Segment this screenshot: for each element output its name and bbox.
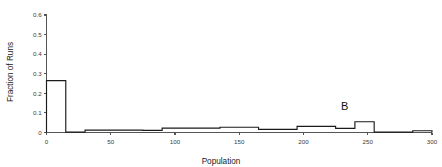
y-tick-label-2: 0.2 [33,90,42,97]
x-tick-label-5: 250 [363,138,374,145]
y-axis-title: Fraction of Runs [6,42,15,102]
x-tick-label-3: 150 [234,138,245,145]
x-tick-label-4: 200 [298,138,309,145]
x-axis-title: Population [202,157,241,166]
annotations-group: B [341,100,348,112]
y-tick-label-1: 0.1 [33,109,42,116]
y-tick-label-5: 0.5 [33,31,42,38]
population-fraction-histogram: 00.10.20.30.40.50.6 050100150200250300 B… [0,0,442,167]
chart-container: 00.10.20.30.40.50.6 050100150200250300 B… [0,0,442,167]
x-tick-label-1: 50 [107,138,114,145]
x-axis-group: 050100150200250300 [45,133,438,145]
y-tick-label-4: 0.4 [33,50,42,57]
y-tick-label-0: 0 [38,129,42,136]
x-tick-label-2: 100 [170,138,181,145]
histogram-step-outline [47,81,433,133]
y-axis-tick-labels: 00.10.20.30.40.50.6 [33,11,42,136]
x-tick-label-0: 0 [45,138,49,145]
x-tick-label-6: 300 [427,138,438,145]
data-series-group [47,81,433,133]
x-axis-tick-labels: 050100150200250300 [45,138,438,145]
annotation-label-b: B [341,100,348,112]
y-tick-label-6: 0.6 [33,11,42,18]
y-axis-group: 00.10.20.30.40.50.6 [33,11,46,136]
y-tick-label-3: 0.3 [33,70,42,77]
